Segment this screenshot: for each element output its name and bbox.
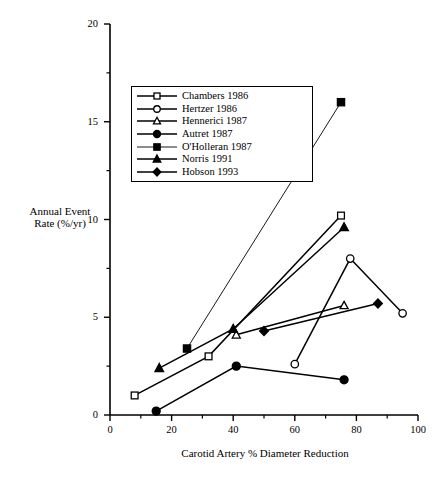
legend-label: Autret 1987 [179,128,232,140]
x-tick-label: 0 [97,424,123,435]
legend-label: Hertzer 1986 [179,103,237,115]
x-tick-label: 80 [343,424,369,435]
legend-label: Hennerici 1987 [179,115,247,127]
legend-marker-open-circle-icon [135,103,179,115]
legend-marker-filled-diamond-icon [135,166,179,178]
legend-item: Hennerici 1987 [135,115,308,128]
y-tick-label: 20 [76,18,98,29]
legend-label: Norris 1991 [179,153,232,165]
legend-label: O'Holleran 1987 [179,141,252,153]
x-tick-label: 40 [220,424,246,435]
legend-marker-filled-triangle-icon [135,153,179,165]
legend-marker-open-triangle-icon [135,115,179,127]
legend-label: Chambers 1986 [179,90,248,102]
chart-figure: Annual Event Rate (%/yr) Carotid Artery … [0,0,440,479]
legend-item: Autret 1987 [135,128,308,141]
y-tick-label: 10 [76,214,98,225]
legend-item: Hertzer 1986 [135,103,308,116]
legend-marker-filled-square-icon [135,141,179,153]
x-tick-label: 60 [282,424,308,435]
legend: Chambers 1986Hertzer 1986Hennerici 1987A… [131,86,313,182]
plot-canvas [0,0,440,479]
legend-marker-filled-circle-icon [135,128,179,140]
y-tick-label: 5 [76,311,98,322]
legend-item: Norris 1991 [135,153,308,166]
y-tick-label: 0 [76,409,98,420]
series-line [260,299,383,336]
y-tick-label: 15 [76,116,98,127]
x-tick-label: 20 [159,424,185,435]
legend-label: Hobson 1993 [179,166,238,178]
legend-marker-open-square-icon [135,90,179,102]
legend-item: O'Holleran 1987 [135,140,308,153]
legend-item: Chambers 1986 [135,90,308,103]
x-tick-label: 100 [405,424,431,435]
x-axis-title: Carotid Artery % Diameter Reduction [110,447,420,459]
series-line [232,301,348,338]
series-line [291,255,406,368]
legend-item: Hobson 1993 [135,166,308,179]
